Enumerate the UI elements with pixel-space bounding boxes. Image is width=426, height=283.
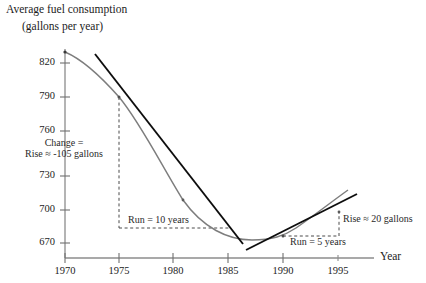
y-tick-label-790: 790 [21, 90, 55, 101]
y-tick-label-670: 670 [21, 236, 55, 247]
x-tick-label-1975: 1975 [95, 265, 143, 276]
fuel-consumption-chart: Average fuel consumption (gallons per ye… [0, 0, 426, 283]
curve-mid-marker [182, 199, 185, 202]
run-10-years-label: Run = 10 years [128, 215, 189, 226]
rise-20-gallons-label: Rise ≈ 20 gallons [343, 214, 413, 225]
x-tick-label-1995: 1995 [314, 265, 362, 276]
chart-title: Average fuel consumption [6, 3, 127, 15]
curve-1995-marker [338, 211, 341, 214]
run-5-years-label: Run = 5 years [290, 237, 346, 248]
y-tick-label-820: 820 [21, 56, 55, 67]
change-label-line1: Change = [13, 138, 115, 149]
x-tick-label-1980: 1980 [149, 265, 197, 276]
x-tick-label-1970: 1970 [41, 265, 89, 276]
tangency-point-1975-marker [118, 96, 121, 99]
x-tick-label-1985: 1985 [204, 265, 252, 276]
curve-start-marker [63, 50, 66, 53]
x-axis-title: Year [380, 250, 401, 262]
y-tick-label-700: 700 [21, 203, 55, 214]
chart-subtitle: (gallons per year) [22, 20, 103, 32]
y-tick-label-730: 730 [21, 169, 55, 180]
y-tick-label-760: 760 [21, 124, 55, 135]
tangency-point-1990-marker [282, 235, 285, 238]
x-tick-label-1990: 1990 [259, 265, 307, 276]
change-label-line2: Rise ≈ -105 gallons [13, 149, 115, 160]
